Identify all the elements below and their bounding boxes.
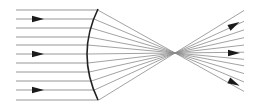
arrowhead-icon: [32, 16, 44, 22]
ray-direction-arrows: [32, 16, 241, 93]
arrowhead-icon: [227, 78, 241, 89]
ray-diagram: [0, 0, 258, 105]
arrowhead-icon: [227, 19, 241, 30]
arrowhead-icon: [32, 87, 44, 93]
arrowhead-icon: [228, 50, 240, 56]
converging-rays: [88, 10, 245, 100]
lens-surface: [87, 9, 98, 100]
arrowhead-icon: [32, 51, 44, 57]
lens-ray-diagram: [0, 0, 258, 105]
